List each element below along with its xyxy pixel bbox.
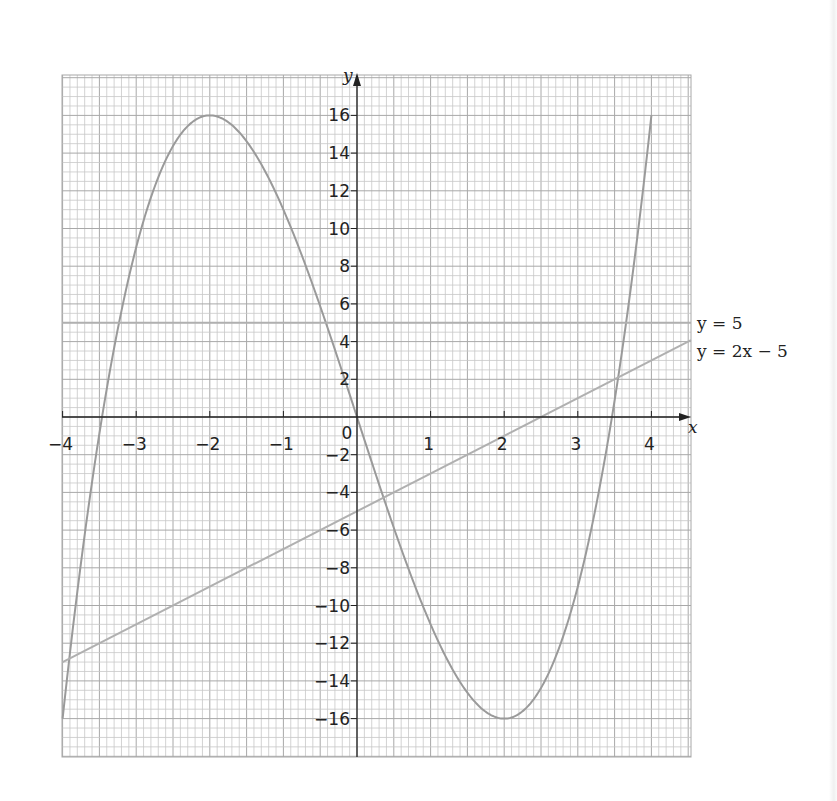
- y-tick-label: 16: [328, 105, 350, 125]
- y-tick-label: −8: [325, 558, 350, 578]
- y-tick-label: −10: [314, 596, 350, 616]
- y-tick-label: 12: [328, 181, 350, 201]
- annotation-y-equals-2x-minus-5: y = 2x − 5: [696, 341, 788, 361]
- x-tick-label: −2: [195, 434, 220, 454]
- x-tick-label: 3: [570, 434, 581, 454]
- x-tick-label: −3: [122, 434, 147, 454]
- y-tick-label: 2: [339, 369, 350, 389]
- x-tick-label: 1: [423, 434, 434, 454]
- page-edge: [829, 0, 837, 801]
- grid-paper: [62, 75, 691, 757]
- x-tick-label: 4: [644, 434, 655, 454]
- axes: [62, 73, 691, 757]
- y-tick-label: 4: [339, 332, 350, 352]
- x-tick-label-origin: 0: [342, 423, 353, 443]
- y-tick-label: −14: [314, 671, 350, 691]
- annotations: y = 5y = 2x − 5: [696, 313, 788, 361]
- y-tick-label: 6: [339, 294, 350, 314]
- x-tick-label: 2: [497, 434, 508, 454]
- x-axis-label: x: [688, 417, 698, 437]
- y-tick-label: −2: [325, 445, 350, 465]
- y-tick-label: −16: [314, 709, 350, 729]
- y-tick-label: 14: [328, 143, 350, 163]
- tick-labels: −4−3−2−101234−16−14−12−10−8−6−4−22468101…: [48, 65, 698, 729]
- y-tick-label: 10: [328, 219, 350, 239]
- y-tick-label: −4: [325, 482, 350, 502]
- annotation-y-equals-5: y = 5: [696, 313, 742, 333]
- y-tick-label: 8: [339, 256, 350, 276]
- x-tick-label: −1: [269, 434, 294, 454]
- cubic-graph-chart: −4−3−2−101234−16−14−12−10−8−6−4−22468101…: [0, 0, 837, 801]
- y-tick-label: −6: [325, 520, 350, 540]
- y-axis-label: y: [342, 65, 353, 85]
- x-tick-label: −4: [48, 434, 73, 454]
- y-tick-label: −12: [314, 633, 350, 653]
